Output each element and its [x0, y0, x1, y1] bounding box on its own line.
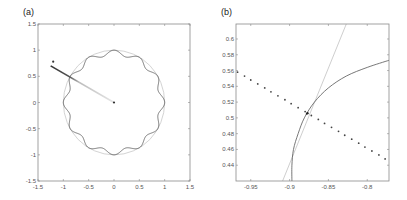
- y-tick-label: 0.5: [226, 115, 235, 121]
- sample-point: [270, 91, 272, 93]
- sample-point: [284, 99, 286, 101]
- sample-point: [317, 119, 319, 121]
- y-tick-label: -0.5: [26, 126, 37, 132]
- sample-point: [257, 83, 259, 85]
- sample-point: [304, 111, 306, 113]
- figure: (a) -1.5-1-0.500.511.5 -1.5-1-0.500.511.…: [0, 0, 407, 200]
- panel-b-y-axis: 0.440.460.480.50.520.540.560.580.6: [222, 36, 389, 168]
- y-tick-label: 0.6: [226, 36, 235, 42]
- y-tick-label: -1.5: [26, 178, 37, 184]
- y-tick-label: -1: [31, 152, 37, 158]
- panel-a-x-axis: -1.5-1-0.500.511.5: [33, 24, 195, 190]
- sample-point: [277, 95, 279, 97]
- y-tick-label: 0.56: [222, 68, 234, 74]
- sample-point: [237, 71, 239, 73]
- sample-point: [358, 142, 360, 144]
- sample-point: [344, 134, 346, 136]
- panel-b-x-axis: -0.95-0.9-0.85-0.8: [244, 24, 373, 190]
- sample-point: [378, 154, 380, 156]
- y-tick-label: 0.58: [222, 52, 234, 58]
- y-tick-label: 0.54: [222, 83, 234, 89]
- sample-point: [297, 107, 299, 109]
- panel-a-label: (a): [23, 7, 34, 17]
- y-tick-label: 0.5: [28, 73, 37, 79]
- x-tick-label: -1.5: [33, 184, 44, 190]
- y-tick-label: 0.48: [222, 131, 234, 137]
- sample-point: [371, 150, 373, 152]
- x-tick-label: -0.8: [362, 184, 373, 190]
- x-tick-label: -0.9: [284, 184, 295, 190]
- sample-point: [290, 103, 292, 105]
- center-point: [113, 101, 115, 103]
- y-tick-label: 0.44: [222, 162, 234, 168]
- panel-b-plot-area: [237, 24, 389, 181]
- sample-point: [351, 138, 353, 140]
- sample-point: [244, 75, 246, 77]
- sample-point: [331, 126, 333, 128]
- x-tick-label: 1.5: [186, 184, 195, 190]
- sample-point: [264, 87, 266, 89]
- ray-segment: [51, 66, 114, 103]
- sample-point: [384, 158, 386, 160]
- sample-point: [364, 146, 366, 148]
- panel-a-plot-area: [51, 50, 165, 155]
- panel-b-label: (b): [221, 7, 232, 17]
- panel-a: (a) -1.5-1-0.500.511.5 -1.5-1-0.500.511.…: [23, 7, 195, 190]
- x-tick-label: -0.95: [244, 184, 258, 190]
- sample-point: [250, 79, 252, 81]
- sample-point: [310, 115, 312, 117]
- y-tick-label: 0.52: [222, 99, 234, 105]
- x-tick-label: 0: [112, 184, 116, 190]
- panel-b: (b) -0.95-0.9-0.85-0.8 0.440.460.480.50.…: [221, 7, 389, 190]
- x-tick-label: -0.85: [322, 184, 336, 190]
- x-tick-label: -1: [61, 184, 67, 190]
- marker-point: [52, 61, 54, 63]
- sample-point: [324, 123, 326, 125]
- x-tick-label: 1: [163, 184, 167, 190]
- x-tick-label: -0.5: [83, 184, 94, 190]
- sample-point: [338, 130, 340, 132]
- y-tick-label: 1.5: [28, 21, 37, 27]
- y-tick-label: 0.46: [222, 146, 234, 152]
- intersection-point: [306, 112, 308, 114]
- y-tick-label: 1: [33, 47, 37, 53]
- panel-a-y-axis: -1.5-1-0.500.511.5: [26, 21, 190, 184]
- y-tick-label: 0: [33, 100, 37, 106]
- panel-b-axes-box: [236, 24, 389, 181]
- boundary-curve: [292, 60, 389, 181]
- x-tick-label: 0.5: [135, 184, 144, 190]
